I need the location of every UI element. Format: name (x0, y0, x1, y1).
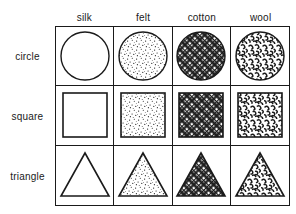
circle-shape-wool (234, 30, 286, 82)
matrix-grid (55, 26, 290, 206)
triangle-shape-silk (58, 150, 112, 200)
circle-shape-felt (117, 30, 169, 82)
cell-circle-cotton (173, 27, 231, 86)
row-label-column: circle square triangle (0, 26, 55, 206)
column-header-label: wool (250, 12, 271, 23)
square-shape-cotton (177, 91, 225, 139)
row-header-circle: circle (0, 26, 55, 86)
cell-triangle-felt (114, 146, 172, 205)
column-header-cotton: cotton (173, 8, 232, 26)
square-shape-wool (236, 91, 284, 139)
cell-square-cotton (173, 86, 231, 145)
cell-circle-silk (56, 27, 114, 86)
column-header-label: cotton (188, 12, 216, 23)
row-header-label: circle (15, 51, 40, 62)
row-header-label: triangle (10, 171, 44, 182)
cell-circle-wool (231, 27, 289, 86)
triangle-shape-felt (116, 150, 170, 200)
circle-shape-cotton (175, 30, 227, 82)
cell-square-silk (56, 86, 114, 145)
cell-circle-felt (114, 27, 172, 86)
cell-square-felt (114, 86, 172, 145)
cell-triangle-silk (56, 146, 114, 205)
row-header-label: square (12, 111, 44, 122)
cell-triangle-cotton (173, 146, 231, 205)
triangle-shape-cotton (174, 150, 228, 200)
circle-shape-silk (59, 30, 111, 82)
column-header-label: felt (136, 12, 150, 23)
cell-square-wool (231, 86, 289, 145)
row-header-triangle: triangle (0, 146, 55, 206)
column-header-silk: silk (55, 8, 114, 26)
shape-material-matrix: silk felt cotton wool circle square tria… (0, 0, 296, 214)
column-header-felt: felt (114, 8, 173, 26)
column-header-row: silk felt cotton wool (55, 8, 290, 26)
square-shape-silk (61, 91, 109, 139)
cell-triangle-wool (231, 146, 289, 205)
column-header-wool: wool (231, 8, 290, 26)
column-header-label: silk (77, 12, 92, 23)
triangle-shape-wool (233, 150, 287, 200)
row-header-square: square (0, 86, 55, 146)
square-shape-felt (119, 91, 167, 139)
